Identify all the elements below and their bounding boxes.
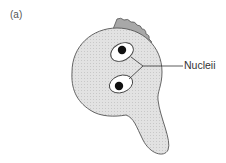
spore-diagram xyxy=(0,0,226,163)
nuclei-label: Nucleii xyxy=(184,59,216,71)
